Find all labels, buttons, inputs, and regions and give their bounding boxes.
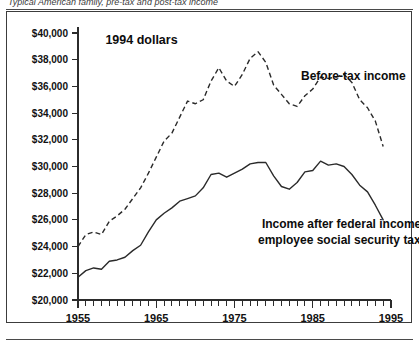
- x-tick-label: 1995: [379, 312, 403, 324]
- y-axis: $20,000$22,000$24,000$26,000$28,000$30,0…: [32, 27, 78, 306]
- y-tick-label: $22,000: [32, 268, 69, 279]
- x-tick-label: 1955: [66, 312, 90, 324]
- x-tick-label: 1975: [222, 312, 246, 324]
- figure-container: Typical American family, pre-tax and pos…: [0, 0, 419, 348]
- y-tick-label: $30,000: [32, 161, 69, 172]
- x-axis: 19551965197519851995: [66, 300, 403, 324]
- bottom-divider-rule: [6, 339, 413, 340]
- series-annotation: Income after federal income and: [262, 217, 419, 231]
- series-annotation: employee social security taxes: [258, 233, 419, 247]
- chart-annotations: 1994 dollarsBefore-tax incomeIncome afte…: [105, 33, 419, 247]
- y-tick-label: $36,000: [32, 81, 69, 92]
- y-tick-label: $28,000: [32, 188, 69, 199]
- x-tick-label: 1965: [144, 312, 168, 324]
- y-tick-label: $24,000: [32, 241, 69, 252]
- line-chart-plot: $20,000$22,000$24,000$26,000$28,000$30,0…: [0, 0, 419, 348]
- y-tick-label: $26,000: [32, 214, 69, 225]
- y-tick-label: $20,000: [32, 295, 69, 306]
- y-tick-label: $38,000: [32, 54, 69, 65]
- y-tick-label: $34,000: [32, 108, 69, 119]
- series-annotation: Before-tax income: [301, 69, 406, 83]
- y-tick-label: $40,000: [32, 28, 69, 39]
- units-annotation: 1994 dollars: [105, 33, 177, 47]
- y-tick-label: $32,000: [32, 134, 69, 145]
- x-tick-label: 1985: [301, 312, 325, 324]
